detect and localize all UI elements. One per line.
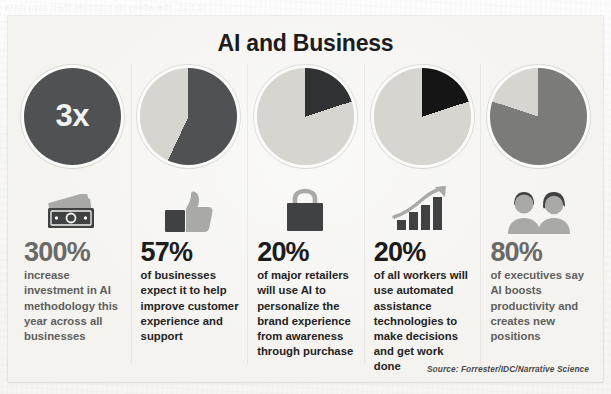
chart-wrapper: 3x (22, 60, 123, 172)
source-attribution: Source: Forrester/IDC/Narrative Science (427, 364, 589, 374)
stat-number: 20% (257, 238, 356, 266)
thumbs-up-icon (160, 190, 218, 234)
page-title: AI and Business (8, 30, 603, 57)
chart-wrapper (372, 60, 473, 172)
stat-description: of major retailers will use AI to person… (257, 268, 356, 359)
money-cash-icon (42, 194, 102, 234)
stat-block: 57%of businesses expect it to help impro… (139, 238, 240, 344)
stat-number: 57% (141, 238, 240, 266)
icon-wrapper (22, 172, 123, 238)
stat-column: 3x 300%increase investment in AI methodo… (14, 60, 131, 374)
growth-chart-icon (391, 184, 453, 234)
pie-chart (374, 68, 471, 165)
stat-number: 20% (374, 238, 473, 266)
icon-wrapper (139, 172, 240, 238)
shopping-bag-icon (281, 188, 329, 234)
chart-wrapper (255, 60, 356, 172)
circle-value-label: 3x (24, 68, 121, 165)
stat-block: 20%of major retailers will use AI to per… (255, 238, 356, 359)
statistics-columns: 3x 300%increase investment in AI methodo… (14, 60, 597, 374)
stat-column: 20%of all workers will use automated ass… (364, 60, 481, 374)
stat-number: 300% (24, 238, 123, 266)
stat-column: 57%of businesses expect it to help impro… (131, 60, 248, 374)
two-people-icon (506, 190, 572, 234)
stat-description: of executives say AI boosts productivity… (490, 268, 589, 344)
icon-wrapper (255, 172, 356, 238)
pie-chart (140, 68, 237, 165)
stat-number: 80% (490, 238, 589, 266)
icon-wrapper (488, 172, 589, 238)
stat-block: 300%increase investment in AI methodolog… (22, 238, 123, 344)
pie-chart (257, 68, 354, 165)
stat-description: of businesses expect it to help improve … (141, 268, 240, 344)
pie-chart (490, 68, 587, 165)
stat-column: 20%of major retailers will use AI to per… (247, 60, 364, 374)
infographic-card: AI and Business 3x 300%increase investme… (8, 16, 603, 382)
stat-column: 80%of executives say AI boosts productiv… (480, 60, 597, 374)
chart-wrapper (488, 60, 589, 172)
stat-block: 20%of all workers will use automated ass… (372, 238, 473, 374)
icon-wrapper (372, 172, 473, 238)
stat-description: increase investment in AI methodology th… (24, 268, 123, 344)
stat-description: of all workers will use automated assist… (374, 268, 473, 374)
solid-circle-chart: 3x (24, 68, 121, 165)
chart-wrapper (139, 60, 240, 172)
stat-block: 80%of executives say AI boosts productiv… (488, 238, 589, 344)
